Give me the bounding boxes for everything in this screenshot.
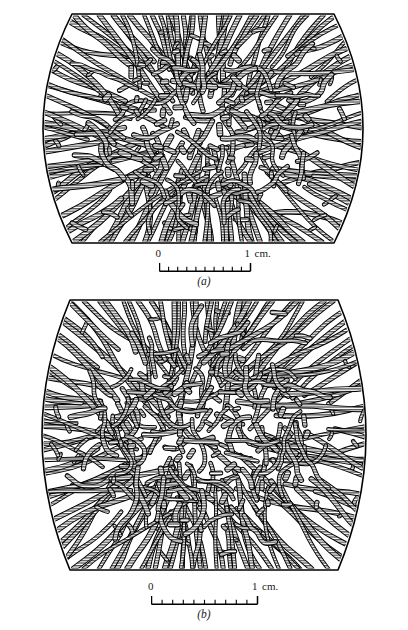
- scale-zero-label-b: 0: [148, 581, 154, 592]
- scale-zero-label-a: 0: [156, 248, 162, 259]
- scale-unit-label-b: cm.: [262, 581, 278, 592]
- ingot-cross-section-b: [0, 292, 408, 582]
- figure-panel-b: [0, 292, 408, 630]
- scale-unit-label-a: cm.: [255, 248, 271, 259]
- scale-one-label-a: 1: [245, 248, 251, 259]
- ingot-cross-section-a: [0, 0, 408, 250]
- ruler-ticks-a: [159, 262, 255, 274]
- scale-bar-a: 0 1 cm.: [0, 250, 408, 278]
- ruler-ticks-b: [151, 595, 262, 607]
- scale-one-label-b: 1: [252, 581, 258, 592]
- panel-label-b: (b): [0, 608, 408, 620]
- panel-label-a: (a): [0, 275, 408, 287]
- figure-page: 0 1 cm. (a) 0 1 cm. (b): [0, 0, 408, 630]
- scale-bar-b: 0 1 cm.: [0, 583, 408, 611]
